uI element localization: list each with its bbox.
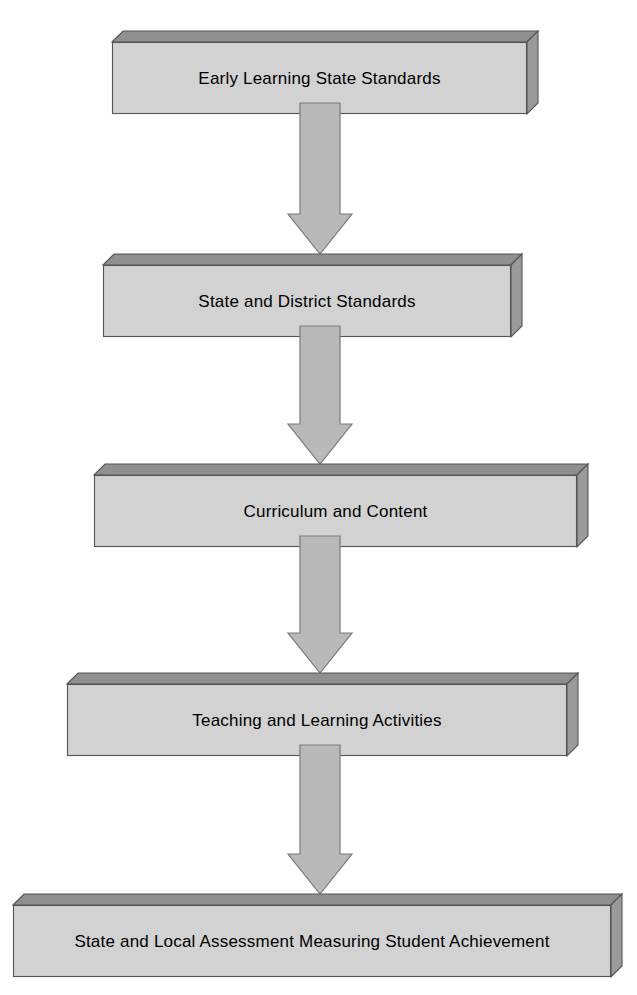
down-arrow-icon [288, 536, 352, 673]
down-arrow-icon [288, 103, 352, 254]
flowchart-canvas: Early Learning State Standards State and… [0, 0, 637, 995]
down-arrow-icon [288, 326, 352, 464]
flow-node-3[interactable]: Curriculum and Content [94, 464, 588, 547]
flow-arrow-4 [288, 745, 352, 894]
flow-node-4[interactable]: Teaching and Learning Activities [67, 673, 578, 756]
flow-node-3-shape [94, 464, 588, 547]
flow-node-1-shape [112, 31, 538, 114]
flow-arrow-3 [288, 536, 352, 673]
down-arrow-icon [288, 745, 352, 894]
flow-arrow-1 [288, 103, 352, 254]
flow-node-4-shape [67, 673, 578, 756]
flow-node-2-shape [103, 254, 522, 337]
flow-node-1[interactable]: Early Learning State Standards [112, 31, 538, 114]
flow-node-5-shape [13, 894, 622, 977]
flow-node-2[interactable]: State and District Standards [103, 254, 522, 337]
flow-node-5[interactable]: State and Local Assessment Measuring Stu… [13, 894, 622, 977]
flow-arrow-2 [288, 326, 352, 464]
